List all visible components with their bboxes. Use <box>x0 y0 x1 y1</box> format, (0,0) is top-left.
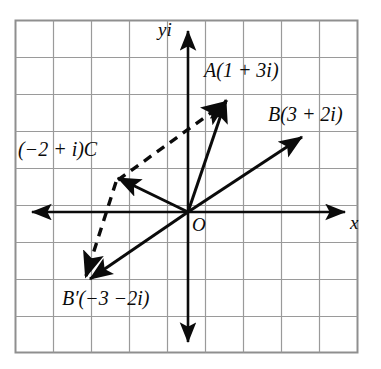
point-label-C: (−2 + i)C <box>18 139 97 159</box>
complex-plane-figure: yi x O A(1 + 3i) B(3 + 2i) (−2 + i)C B′(… <box>0 0 381 369</box>
point-label-A: A(1 + 3i) <box>204 60 279 80</box>
origin-label: O <box>192 215 206 234</box>
point-label-Bprime: B′(−3 −2i) <box>62 288 149 308</box>
x-axis-label: x <box>350 213 358 232</box>
point-label-B: B(3 + 2i) <box>268 104 343 124</box>
y-axis-label: yi <box>158 20 172 39</box>
plot-canvas <box>0 0 381 369</box>
